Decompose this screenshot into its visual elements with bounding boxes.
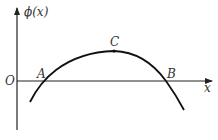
point-b-label: B (166, 67, 176, 81)
point-a-label: A (36, 67, 46, 81)
y-axis-label: ϕ(x) (24, 5, 49, 19)
point-c-label: C (110, 35, 119, 49)
point-c-marker (112, 49, 115, 52)
origin-label: O (5, 74, 15, 88)
phi-function-diagram: ϕ(x) x O A B C (0, 0, 218, 140)
x-axis-label: x (204, 81, 211, 95)
